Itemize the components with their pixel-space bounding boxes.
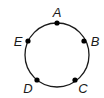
point-e: E (14, 34, 31, 49)
point-label-c: C (78, 81, 88, 96)
point-label-d: D (23, 81, 32, 96)
diagram-canvas: A B C D E (0, 0, 104, 98)
circle (25, 23, 89, 87)
point-label-b: B (91, 34, 100, 49)
point-label-a: A (52, 5, 62, 20)
point-d: D (23, 77, 39, 96)
circle-diagram: A B C D E (0, 0, 104, 98)
point-c: C (72, 77, 88, 96)
point-label-e: E (14, 34, 23, 49)
point-b: B (81, 34, 99, 49)
